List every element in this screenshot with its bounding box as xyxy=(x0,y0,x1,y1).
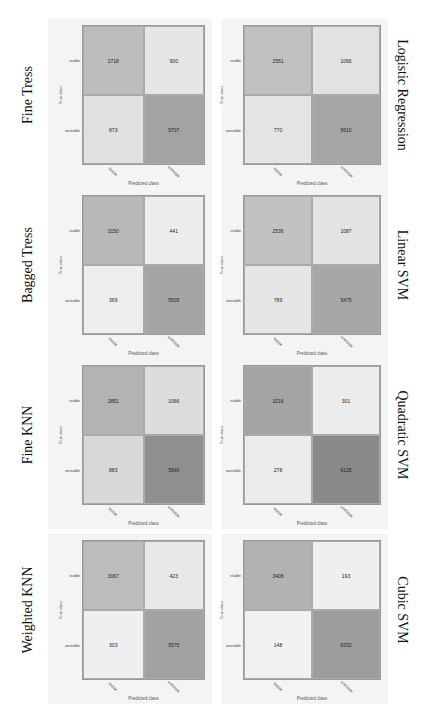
y-axis-label: True class xyxy=(219,601,224,619)
matrix-cell: 2536 xyxy=(244,196,312,265)
x-axis-label: Predicted class xyxy=(128,696,159,701)
matrix-cell: 770 xyxy=(244,95,312,164)
row-label-unstable: unstable xyxy=(65,298,80,303)
row-label-unstable: unstable xyxy=(65,128,80,133)
panel-title: Fine KNN xyxy=(20,406,36,465)
y-axis-label: True class xyxy=(58,426,63,444)
matrix-cell: 1066 xyxy=(144,366,205,435)
matrix-grid: 285110668835540 xyxy=(82,365,205,505)
x-axis-label: Predicted class xyxy=(128,351,159,356)
row-label-stable: stable xyxy=(230,573,241,578)
row-label-stable: stable xyxy=(230,228,241,233)
panel-title: Fine Tress xyxy=(20,66,36,124)
matrix-cell: 6332 xyxy=(312,610,380,679)
matrix-cell: 1087 xyxy=(312,196,380,265)
row-label-stable: stable xyxy=(69,573,80,578)
matrix-cell: 423 xyxy=(144,541,205,610)
panel-title: Bagged Tress xyxy=(20,227,36,303)
y-axis-label: True class xyxy=(58,256,63,274)
panel-title: Logistic Regression xyxy=(394,39,410,151)
panel-title: Weighted KNN xyxy=(20,566,36,653)
y-axis-label: True class xyxy=(219,256,224,274)
matrix-cell: 441 xyxy=(144,196,205,265)
matrix-cell: 6135 xyxy=(312,435,380,504)
row-label-stable: stable xyxy=(230,398,241,403)
matrix-cell: 5610 xyxy=(312,95,380,164)
matrix-grid: 27189008735707 xyxy=(82,25,205,165)
matrix-cell: 3216 xyxy=(244,366,312,435)
row-label-unstable: unstable xyxy=(65,468,80,473)
row-label-stable: stable xyxy=(69,58,80,63)
matrix-cell: 5505 xyxy=(144,265,205,334)
matrix-cell: 873 xyxy=(83,95,144,164)
matrix-cell: 2551 xyxy=(244,26,312,95)
matrix-cell: 5540 xyxy=(144,435,205,504)
row-label-unstable: unstable xyxy=(65,643,80,648)
matrix-cell: 5575 xyxy=(144,610,205,679)
matrix-cell: 193 xyxy=(312,541,380,610)
x-axis-label: Predicted class xyxy=(297,521,328,526)
matrix-cell: 278 xyxy=(244,435,312,504)
matrix-cell: 2718 xyxy=(83,26,144,95)
matrix-cell: 369 xyxy=(83,265,144,334)
row-label-unstable: unstable xyxy=(226,468,241,473)
matrix-cell: 900 xyxy=(144,26,205,95)
x-axis-label: Predicted class xyxy=(297,696,328,701)
matrix-cell: 883 xyxy=(83,435,144,504)
row-label-stable: stable xyxy=(230,58,241,63)
row-label-unstable: unstable xyxy=(226,643,241,648)
matrix-grid: 255110667705610 xyxy=(243,25,381,165)
row-label-stable: stable xyxy=(69,398,80,403)
matrix-cell: 5707 xyxy=(144,95,205,164)
matrix-cell: 3408 xyxy=(244,541,312,610)
x-axis-label: Predicted class xyxy=(297,351,328,356)
row-label-unstable: unstable xyxy=(226,128,241,133)
row-label-unstable: unstable xyxy=(226,298,241,303)
matrix-cell: 3067 xyxy=(83,541,144,610)
matrix-grid: 32163012786135 xyxy=(243,365,381,505)
panel-title: Cubic SVM xyxy=(394,576,410,643)
panel-title: Linear SVM xyxy=(394,230,410,300)
x-axis-label: Predicted class xyxy=(297,181,328,186)
matrix-grid: 34081931486332 xyxy=(243,540,381,680)
y-axis-label: True class xyxy=(219,86,224,104)
matrix-cell: 3150 xyxy=(83,196,144,265)
matrix-cell: 1066 xyxy=(312,26,380,95)
y-axis-label: True class xyxy=(219,426,224,444)
x-axis-label: Predicted class xyxy=(128,181,159,186)
y-axis-label: True class xyxy=(58,601,63,619)
matrix-cell: 301 xyxy=(312,366,380,435)
matrix-cell: 2851 xyxy=(83,366,144,435)
matrix-cell: 303 xyxy=(83,610,144,679)
matrix-cell: 789 xyxy=(244,265,312,334)
matrix-grid: 30674233035575 xyxy=(82,540,205,680)
matrix-cell: 148 xyxy=(244,610,312,679)
x-axis-label: Predicted class xyxy=(128,521,159,526)
y-axis-label: True class xyxy=(58,86,63,104)
panel-title: Quadratic SVM xyxy=(394,390,410,479)
matrix-cell: 5475 xyxy=(312,265,380,334)
matrix-grid: 31504413695505 xyxy=(82,195,205,335)
matrix-grid: 253610877895475 xyxy=(243,195,381,335)
row-label-stable: stable xyxy=(69,228,80,233)
